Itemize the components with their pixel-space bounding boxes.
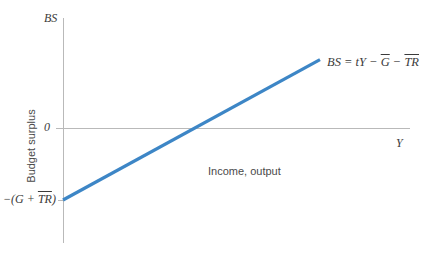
x-axis-symbol-label: Y <box>396 136 403 151</box>
equation-lhs: BS <box>327 55 341 69</box>
equation-term-ty: tY <box>356 55 366 69</box>
y-axis-title: Budget surplus <box>25 96 37 196</box>
budget-surplus-line <box>63 60 320 200</box>
intercept-open-paren: −( <box>3 192 15 206</box>
equation-minus-1: − <box>366 55 381 69</box>
intercept-close-paren: ) <box>52 192 56 206</box>
equation-label: BS = tY − G − TR <box>327 55 419 70</box>
equation-minus-2: − <box>390 55 405 69</box>
budget-surplus-chart: BS 0 Y −(G + TR) BS = tY − G − TR Budget… <box>0 0 426 255</box>
x-axis-title: Income, output <box>208 165 281 177</box>
equation-term-tr: TR <box>404 55 419 69</box>
plot-area <box>0 0 426 255</box>
zero-tick-label: 0 <box>44 120 50 135</box>
intercept-term-g: G <box>15 192 24 206</box>
equation-equals: = <box>341 55 356 69</box>
equation-term-g: G <box>381 55 390 69</box>
intercept-term-tr: TR <box>38 192 52 206</box>
y-axis-symbol-label: BS <box>44 11 57 26</box>
